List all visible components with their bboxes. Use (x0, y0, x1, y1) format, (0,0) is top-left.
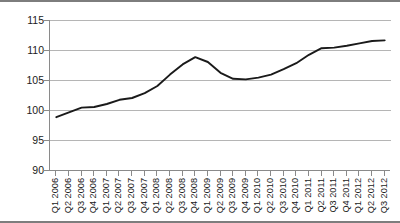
x-axis-tick-mark (182, 171, 183, 176)
x-axis-tick-label: Q2 2008 (163, 178, 175, 223)
x-axis-tick-mark (68, 171, 69, 176)
y-axis-tick-mark (43, 140, 49, 141)
x-axis-tick-label: Q1 2006 (49, 178, 61, 223)
x-axis-tick-mark (106, 171, 107, 176)
x-axis-tick-mark (358, 171, 359, 176)
x-axis-tick-label: Q1 2011 (302, 178, 314, 223)
x-axis-tick-mark (333, 171, 334, 176)
x-axis-tick-label: Q1 2007 (100, 178, 112, 223)
x-axis-tick-mark (194, 171, 195, 176)
x-axis-tick-label: Q4 2010 (289, 178, 301, 223)
x-axis-tick-mark (118, 171, 119, 176)
x-axis-tick-label: Q2 2012 (365, 178, 377, 223)
x-axis-tick-mark (295, 171, 296, 176)
x-axis-tick-label: Q3 2009 (226, 178, 238, 223)
y-axis-tick-mark (43, 170, 49, 171)
x-axis-tick-label: Q1 2012 (352, 178, 364, 223)
x-axis-tick-label: Q1 2008 (150, 178, 162, 223)
x-axis-tick-mark (81, 171, 82, 176)
x-axis-tick-mark (55, 171, 56, 176)
x-axis-tick-label: Q2 2007 (112, 178, 124, 223)
y-axis-tick-label: 100 (22, 104, 44, 116)
x-axis-tick-mark (283, 171, 284, 176)
x-axis-tick-mark (131, 171, 132, 176)
y-axis-tick-mark (43, 50, 49, 51)
x-axis-tick-label: Q2 2011 (315, 178, 327, 223)
chart-figure: 2006 = 100 9095100105110115 Q1 2006Q2 20… (0, 0, 400, 223)
y-axis-tick-label: 115 (22, 14, 44, 26)
x-axis-tick-mark (169, 171, 170, 176)
y-axis-tick-label: 95 (22, 134, 44, 146)
x-axis-tick-mark (144, 171, 145, 176)
y-axis-tick-labels: 9095100105110115 (22, 14, 44, 170)
x-axis-tick-label: Q2 2010 (264, 178, 276, 223)
x-axis-tick-mark (232, 171, 233, 176)
x-axis-tick-mark (308, 171, 309, 176)
x-axis-tick-label: Q1 2010 (251, 178, 263, 223)
plot-area (49, 20, 391, 170)
x-axis-tick-mark (156, 171, 157, 176)
x-axis-tick-mark (220, 171, 221, 176)
x-axis-tick-label: Q3 2007 (125, 178, 137, 223)
series-line (56, 40, 384, 117)
x-axis-tick-label: Q2 2006 (62, 178, 74, 223)
x-axis-tick-mark (245, 171, 246, 176)
x-axis-tick-mark (257, 171, 258, 176)
x-axis-tick-label: Q3 2012 (378, 178, 390, 223)
x-axis-tick-mark (384, 171, 385, 176)
x-axis-tick-mark (93, 171, 94, 176)
x-axis-tick-label: Q2 2009 (214, 178, 226, 223)
x-axis-tick-label: Q3 2006 (75, 178, 87, 223)
x-axis-tick-mark (321, 171, 322, 176)
x-axis-tick-label: Q3 2010 (277, 178, 289, 223)
y-axis-tick-label: 110 (22, 44, 44, 56)
x-axis-tick-mark (346, 171, 347, 176)
x-axis-tick-mark (207, 171, 208, 176)
x-axis-tick-label: Q4 2007 (138, 178, 150, 223)
x-axis-tick-label: Q4 2006 (87, 178, 99, 223)
x-axis-tick-labels: Q1 2006Q2 2006Q3 2006Q4 2006Q1 2007Q2 20… (49, 178, 390, 223)
x-axis-tick-mark (371, 171, 372, 176)
y-axis-tick-mark (43, 20, 49, 21)
y-axis-tick-label: 90 (22, 164, 44, 176)
x-axis-tick-label: Q3 2011 (327, 178, 339, 223)
x-axis-tick-mark (270, 171, 271, 176)
x-axis-tick-label: Q4 2011 (340, 178, 352, 223)
x-axis-tick-label: Q3 2008 (176, 178, 188, 223)
x-axis-tick-label: Q4 2008 (188, 178, 200, 223)
y-axis-tick-mark (43, 110, 49, 111)
y-axis-tick-mark (43, 80, 49, 81)
series-line-chart (50, 20, 391, 170)
x-axis-tick-label: Q1 2009 (201, 178, 213, 223)
y-axis-tick-label: 105 (22, 74, 44, 86)
x-axis-tick-label: Q4 2009 (239, 178, 251, 223)
